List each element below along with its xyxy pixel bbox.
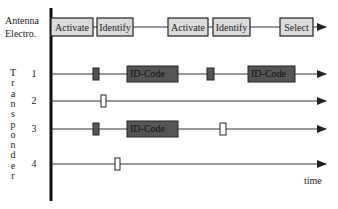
antenna-box-identify: Identify bbox=[213, 18, 250, 36]
transponder-row-1: 1ID-CodeID-Code bbox=[32, 66, 327, 82]
transponder-number: 1 bbox=[32, 68, 37, 79]
transponder-row-3: 3ID-Code bbox=[32, 121, 327, 137]
antenna-box-select: Select bbox=[280, 18, 313, 36]
antenna-box-identify: Identify bbox=[97, 18, 133, 36]
light-marker bbox=[115, 158, 120, 170]
vertical-label-letter: r bbox=[11, 170, 15, 181]
antenna-box-label: Activate bbox=[55, 22, 89, 33]
antenna-box-label: Identify bbox=[216, 22, 248, 33]
light-marker bbox=[101, 95, 106, 107]
transponder-number: 4 bbox=[32, 158, 37, 169]
rfid-timing-diagram: Antenna Electro. ActivateIdentifyActivat… bbox=[0, 0, 338, 209]
antenna-label-line1: Antenna bbox=[5, 15, 39, 26]
transponder-row-2: 2 bbox=[32, 95, 327, 107]
dark-marker bbox=[207, 68, 214, 80]
antenna-box-activate: Activate bbox=[51, 18, 93, 36]
antenna-box-label: Identify bbox=[99, 22, 131, 33]
antenna-label-line2: Electro. bbox=[5, 28, 36, 39]
dark-marker bbox=[93, 123, 99, 135]
transponder-vertical-label: Transponder bbox=[10, 67, 16, 181]
id-code-label: ID-Code bbox=[130, 68, 166, 79]
transponder-number: 3 bbox=[32, 123, 37, 134]
id-code-label: ID-Code bbox=[130, 123, 166, 134]
antenna-box-activate: Activate bbox=[168, 18, 208, 36]
transponder-rows: 1ID-CodeID-Code23ID-Code4 bbox=[32, 66, 327, 170]
transponder-number: 2 bbox=[32, 95, 37, 106]
transponder-row-4: 4 bbox=[32, 158, 327, 170]
light-marker bbox=[220, 123, 226, 135]
antenna-box-label: Activate bbox=[171, 22, 205, 33]
dark-marker bbox=[93, 68, 99, 80]
time-axis-label: time bbox=[304, 175, 322, 186]
antenna-box-label: Select bbox=[284, 22, 309, 33]
id-code-label: ID-Code bbox=[251, 68, 287, 79]
